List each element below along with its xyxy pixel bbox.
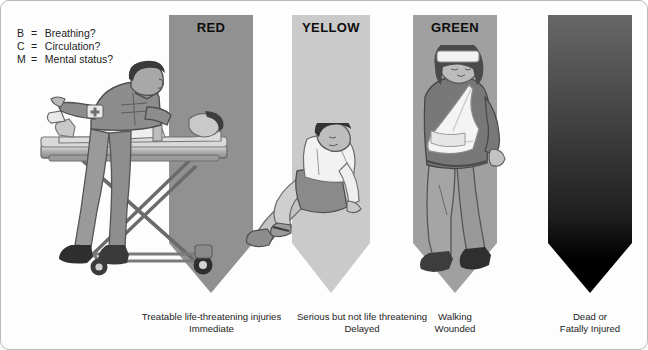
standing-woman-with-arm-sling-illustration xyxy=(407,45,507,285)
seated-injured-man-illustration xyxy=(243,123,363,258)
triage-figure: B = Breathing? C = Circulation? M = Ment… xyxy=(0,0,648,350)
caption-green: Walking Wounded xyxy=(410,311,500,334)
banner-black xyxy=(548,15,632,293)
legend-key: M xyxy=(17,53,28,66)
paramedic-with-patient-on-stretcher-illustration xyxy=(35,49,237,299)
legend-key: C xyxy=(17,40,28,53)
legend-text: Breathing? xyxy=(45,27,96,39)
caption-black: Dead or Fatally Injured xyxy=(539,311,641,334)
caption-black-line1: Dead or xyxy=(539,311,641,323)
banner-green-label: GREEN xyxy=(413,20,497,35)
banner-yellow-label: YELLOW xyxy=(292,20,370,35)
head-bandage xyxy=(437,51,479,62)
caption-green-line1: Walking xyxy=(410,311,500,323)
legend-row: B = Breathing? xyxy=(17,27,113,40)
legend-equals: = xyxy=(31,27,42,40)
legend-key: B xyxy=(17,27,28,40)
caption-black-line2: Fatally Injured xyxy=(539,323,641,335)
caption-green-line2: Wounded xyxy=(410,323,500,335)
banner-red-label: RED xyxy=(169,20,253,35)
